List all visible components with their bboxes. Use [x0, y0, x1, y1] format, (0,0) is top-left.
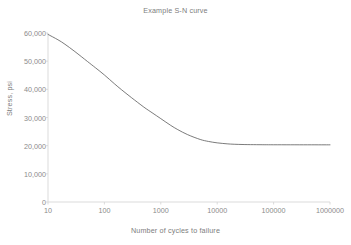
sn-curve-chart: Example S-N curve Stress, psi Number of …: [0, 0, 351, 245]
axis-tick-marks: [46, 33, 331, 205]
plot-area: [0, 0, 351, 245]
data-series-line: [48, 34, 330, 144]
